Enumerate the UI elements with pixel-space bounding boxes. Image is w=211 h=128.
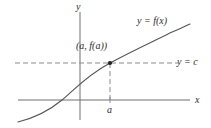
function-graph-figure: y x a (a, f(a)) y = f(x) y = c — [0, 0, 211, 128]
marked-point — [108, 61, 112, 65]
level-line-label: y = c — [177, 57, 198, 67]
curve-equation-label: y = f(x) — [137, 16, 167, 26]
y-axis-label: y — [76, 2, 80, 12]
x-tick-label-a: a — [107, 105, 112, 115]
function-curve — [18, 24, 190, 122]
point-coordinate-label: (a, f(a)) — [76, 41, 107, 51]
x-axis-label: x — [195, 95, 199, 105]
